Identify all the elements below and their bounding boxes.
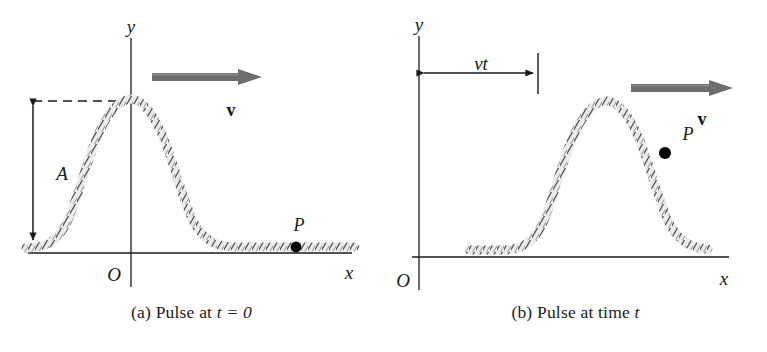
point-p-label-b: P — [682, 124, 694, 144]
velocity-label-a: v — [227, 100, 236, 120]
caption-b-math: t — [635, 302, 640, 322]
velocity-label-b: v — [698, 109, 707, 129]
y-axis-label-b: y — [413, 14, 424, 35]
rope-pulse-b — [469, 101, 708, 250]
point-p-label-a: P — [293, 215, 305, 235]
caption-b-prefix: (b) Pulse at time — [511, 302, 634, 322]
caption-a-math: t = 0 — [217, 302, 252, 322]
caption-b: (b) Pulse at time t — [384, 302, 767, 323]
y-axis-label-a: y — [125, 16, 136, 37]
rope-pulse-a — [26, 99, 355, 248]
amplitude-label-a: A — [54, 163, 68, 184]
panel-a-diagram: y x O A v P — [0, 0, 383, 300]
caption-a: (a) Pulse at t = 0 — [0, 302, 383, 323]
point-p-marker-b — [659, 147, 671, 159]
panel-a: y x O A v P (a) Pulse at t = 0 — [0, 0, 383, 352]
displacement-label-b: vt — [474, 53, 488, 74]
panel-b: y x O vt v P (b) Pulse at time t — [384, 0, 767, 352]
x-axis-label-a: x — [344, 262, 354, 283]
x-axis-label-b: x — [719, 268, 729, 289]
caption-a-prefix: (a) Pulse at — [131, 302, 217, 322]
point-p-marker-a — [291, 242, 302, 253]
origin-label-b: O — [396, 270, 410, 291]
rope-pulse-a-outline — [26, 99, 355, 248]
velocity-arrow-b — [631, 80, 733, 96]
origin-label-a: O — [107, 264, 121, 285]
panel-b-diagram: y x O vt v P — [384, 0, 767, 300]
wave-pulse-figure: y x O A v P (a) Pulse at t = 0 — [0, 0, 767, 352]
velocity-arrow-a — [152, 69, 262, 85]
